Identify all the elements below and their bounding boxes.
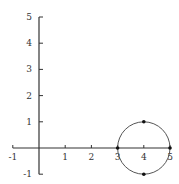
data-point bbox=[116, 146, 120, 150]
y-tick-label: 2 bbox=[26, 91, 32, 101]
y-tick-label: 1 bbox=[26, 117, 32, 127]
coordinate-plot: -112345-112345 bbox=[0, 0, 179, 184]
tick-labels: -112345-112345 bbox=[8, 12, 173, 179]
data-point bbox=[142, 172, 146, 176]
data-point bbox=[168, 146, 172, 150]
x-tick-label: 1 bbox=[62, 152, 68, 162]
x-tick-label: 2 bbox=[89, 152, 95, 162]
x-tick-label: 4 bbox=[141, 152, 147, 162]
data-point bbox=[142, 120, 146, 124]
y-tick-label: 5 bbox=[26, 12, 32, 22]
axes bbox=[13, 17, 170, 174]
y-tick-label: -1 bbox=[23, 169, 32, 179]
y-tick-label: 4 bbox=[26, 38, 32, 48]
ticks bbox=[13, 17, 170, 174]
y-tick-label: 3 bbox=[26, 64, 32, 74]
x-tick-label: -1 bbox=[8, 152, 17, 162]
